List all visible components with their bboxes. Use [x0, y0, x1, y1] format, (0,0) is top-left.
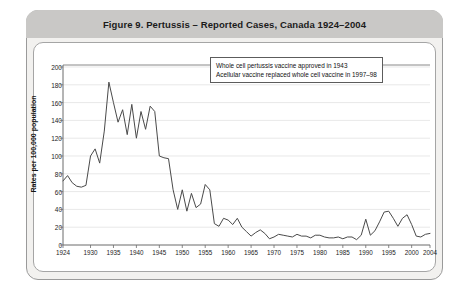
figure-title-bar: Figure 9. Pertussis – Reported Cases, Ca… [26, 10, 443, 38]
page-title: Figure 9. Pertussis – Reported Cases, Ca… [103, 19, 366, 30]
legend-line-2: Acellular vaccine replaced whole cell va… [216, 70, 377, 79]
legend-line-1: Whole cell pertussis vaccine approved in… [216, 61, 377, 70]
plot-area: Rates per 100,000 population 02040608010… [34, 43, 437, 273]
figure-root: Figure 9. Pertussis – Reported Cases, Ca… [0, 0, 469, 293]
legend-box: Whole cell pertussis vaccine approved in… [210, 57, 383, 83]
chart-panel: Rates per 100,000 population 02040608010… [33, 42, 436, 272]
